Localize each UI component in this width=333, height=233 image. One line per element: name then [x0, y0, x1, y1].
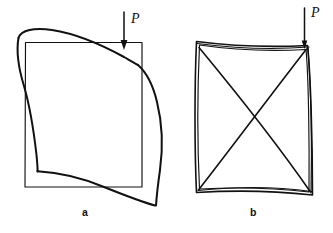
panel-b-diagonal-tl-br	[199, 48, 311, 193]
panel-a-deformed-top-edge	[19, 29, 139, 65]
panel-a-load-arrowhead	[121, 40, 128, 50]
figure-root: P P a b	[0, 0, 333, 233]
panel-b-group	[195, 8, 313, 195]
panel-b-load-label: P	[311, 6, 320, 20]
panel-a-undeformed-square	[25, 43, 142, 188]
panel-b-diagonal-tr-bl	[199, 49, 307, 190]
panel-a-load-label: P	[131, 12, 140, 26]
panel-a-group	[18, 12, 162, 206]
panel-b-caption: b	[250, 207, 256, 218]
figure-canvas	[0, 0, 333, 233]
panel-a-caption: a	[82, 207, 88, 218]
panel-a-deformed-bottom-edge	[38, 171, 155, 205]
panel-a-deformed-left-edge	[18, 38, 38, 171]
